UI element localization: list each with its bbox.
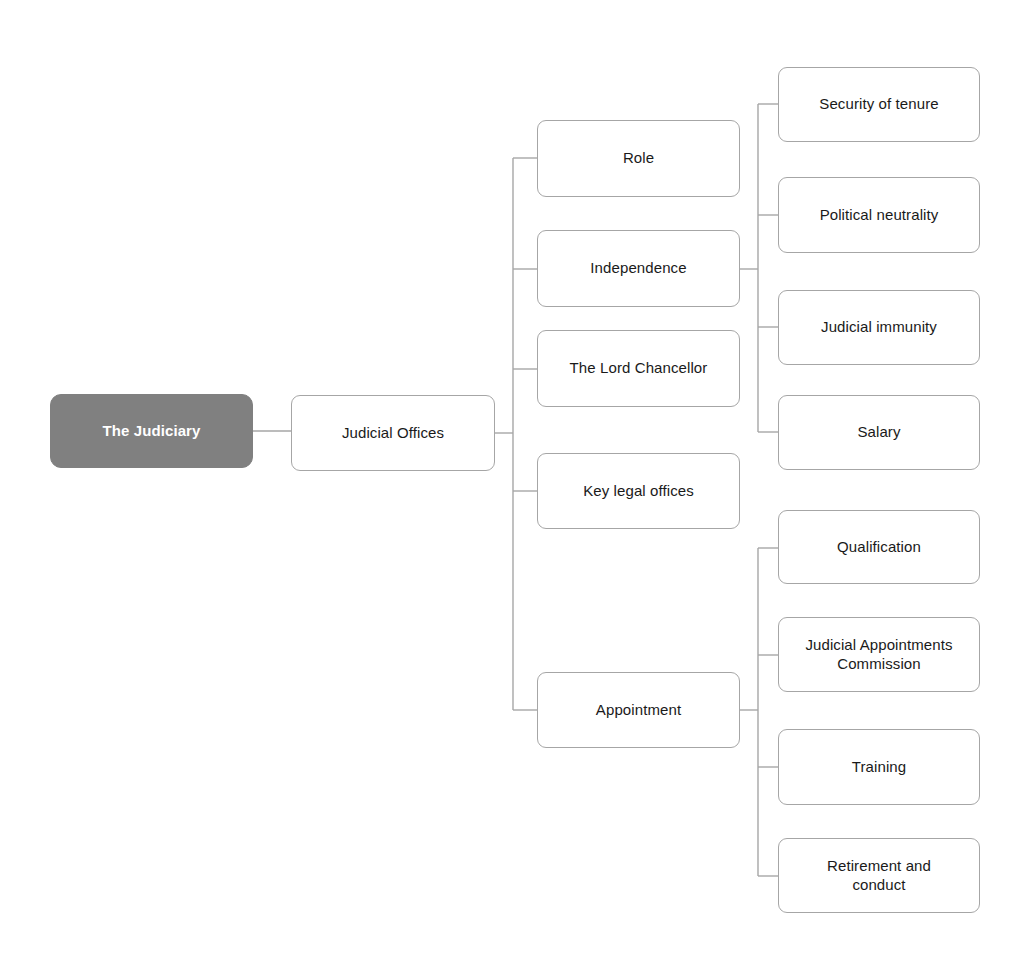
node-security-of-tenure[interactable]: Security of tenure bbox=[778, 67, 980, 142]
node-judicial-appointments-commission[interactable]: Judicial Appointments Commission bbox=[778, 617, 980, 692]
node-label: The Judiciary bbox=[102, 422, 200, 441]
node-label: Retirement and conduct bbox=[827, 857, 931, 895]
node-label: Judicial immunity bbox=[821, 318, 937, 337]
connector-lines bbox=[0, 0, 1028, 963]
node-label: Salary bbox=[857, 423, 900, 442]
node-label: Qualification bbox=[837, 538, 921, 557]
node-the-lord-chancellor[interactable]: The Lord Chancellor bbox=[537, 330, 740, 407]
node-key-legal-offices[interactable]: Key legal offices bbox=[537, 453, 740, 529]
node-label: The Lord Chancellor bbox=[570, 359, 708, 378]
node-label: Judicial Offices bbox=[342, 424, 444, 443]
node-training[interactable]: Training bbox=[778, 729, 980, 805]
node-label: Judicial Appointments Commission bbox=[805, 636, 952, 674]
node-appointment[interactable]: Appointment bbox=[537, 672, 740, 748]
node-political-neutrality[interactable]: Political neutrality bbox=[778, 177, 980, 253]
node-judicial-immunity[interactable]: Judicial immunity bbox=[778, 290, 980, 365]
node-salary[interactable]: Salary bbox=[778, 395, 980, 470]
node-label: Appointment bbox=[596, 701, 681, 720]
node-the-judiciary[interactable]: The Judiciary bbox=[50, 394, 253, 468]
node-label: Key legal offices bbox=[583, 482, 694, 501]
node-label: Independence bbox=[590, 259, 686, 278]
node-label: Role bbox=[623, 149, 654, 168]
node-independence[interactable]: Independence bbox=[537, 230, 740, 307]
node-label: Security of tenure bbox=[819, 95, 938, 114]
node-judicial-offices[interactable]: Judicial Offices bbox=[291, 395, 495, 471]
node-retirement-and-conduct[interactable]: Retirement and conduct bbox=[778, 838, 980, 913]
node-role[interactable]: Role bbox=[537, 120, 740, 197]
node-qualification[interactable]: Qualification bbox=[778, 510, 980, 584]
node-label: Training bbox=[852, 758, 906, 777]
node-label: Political neutrality bbox=[820, 206, 939, 225]
diagram-canvas: The Judiciary Judicial Offices Role Inde… bbox=[0, 0, 1028, 963]
